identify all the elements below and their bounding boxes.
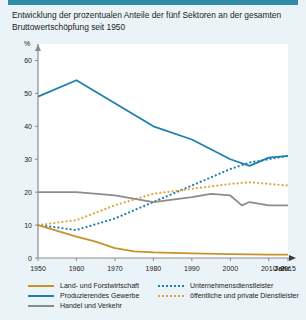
legend-row: Land- und Forstwirtschaft Unternehmensdi… [28,282,300,289]
x-tick-label: 1990 [184,265,200,272]
chart-page: Entwicklung der prozentualen Anteile der… [0,0,306,320]
accent-bar [8,0,298,5]
x-tick-label: 2015 [280,265,296,272]
y-tick-label: 20 [24,189,32,196]
legend-label: Produzierendes Gewerbe [60,292,139,299]
legend-swatch-line-icon [28,305,54,307]
legend-item-handel-und-verkehr[interactable]: Handel und Verkehr [28,302,158,309]
legend-label: öffentliche und private Dienstleister [190,292,299,299]
legend-item-oeffentliche-und-private-dienstleister[interactable]: öffentliche und private Dienstleister [158,292,300,299]
page-title: Entwicklung der prozentualen Anteile der… [12,10,294,33]
legend-item-produzierendes-gewerbe[interactable]: Produzierendes Gewerbe [28,292,158,299]
y-tick-label: 10 [24,222,32,229]
chart-legend: Land- und Forstwirtschaft Unternehmensdi… [28,282,300,312]
x-axis-arrow [289,255,296,261]
legend-label: Handel und Verkehr [60,302,122,309]
line-chart-svg: 0102030405060 19501960197019801990200020… [0,44,306,272]
y-tick-labels: 0102030405060 [24,57,32,262]
legend-swatch-dotted-icon [158,285,184,287]
legend-row: Produzierendes Gewerbe öffentliche und p… [28,292,300,299]
x-tick-labels: 19501960197019801990200020102015 [30,265,296,272]
legend-swatch-dotted-icon [158,295,184,297]
x-tick-label: 2000 [223,265,239,272]
legend-label: Unternehmensdienstleister [190,282,273,289]
legend-label: Land- und Forstwirtschaft [60,282,139,289]
legend-item-land-und-forstwirtschaft[interactable]: Land- und Forstwirtschaft [28,282,158,289]
x-tick-label: 1980 [146,265,162,272]
x-tick-label: 1960 [69,265,85,272]
y-tick-label: 0 [28,255,32,262]
y-tick-label: 40 [24,123,32,130]
legend-row: Handel und Verkehr [28,302,300,309]
legend-item-unternehmensdienstleister[interactable]: Unternehmensdienstleister [158,282,300,289]
y-tick-label: 50 [24,90,32,97]
x-tick-label: 1970 [107,265,123,272]
legend-swatch-line-icon [28,295,54,297]
plot-background [38,44,288,258]
legend-swatch-line-icon [28,285,54,287]
y-tick-label: 30 [24,156,32,163]
y-tick-label: 60 [24,57,32,64]
x-tick-label: 2010 [261,265,277,272]
x-tick-label: 1950 [30,265,46,272]
plot-area: 0102030405060 19501960197019801990200020… [0,44,306,272]
